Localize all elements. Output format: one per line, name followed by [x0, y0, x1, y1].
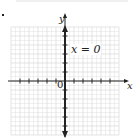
coordinate-plane [0, 0, 139, 140]
origin-label: 0 [57, 80, 63, 90]
line-arrow-up-icon [62, 25, 68, 32]
y-axis-label: y [59, 14, 65, 24]
equation-label: x = 0 [70, 44, 101, 55]
x-axis-label: x [127, 81, 133, 91]
line-arrow-down-icon [62, 131, 68, 138]
